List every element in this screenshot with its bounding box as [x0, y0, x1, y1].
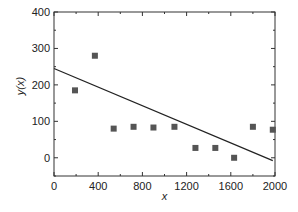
y-tick-label: 400	[32, 6, 50, 18]
data-point	[270, 127, 276, 133]
y-tick-label: 300	[32, 42, 50, 54]
fit-line	[54, 68, 273, 160]
plot-border	[54, 12, 275, 176]
data-point	[171, 124, 177, 130]
y-tick-label: 0	[44, 152, 50, 164]
x-tick-label: 1200	[174, 180, 198, 192]
x-tick-label: 400	[89, 180, 107, 192]
data-points	[72, 53, 276, 161]
axis-ticks: 04008001200160020000100200300400	[32, 6, 288, 192]
x-tick-label: 800	[133, 180, 151, 192]
data-point	[231, 155, 237, 161]
y-tick-label: 100	[32, 115, 50, 127]
scatter-chart: 04008001200160020000100200300400 x y(x)	[0, 0, 298, 212]
plot-frame	[54, 12, 275, 176]
x-axis-label: x	[161, 190, 168, 202]
data-point	[250, 124, 256, 130]
y-tick-label: 200	[32, 79, 50, 91]
x-tick-label: 2000	[263, 180, 287, 192]
regression-line	[54, 68, 273, 160]
data-point	[192, 145, 198, 151]
y-axis-label: y(x)	[14, 77, 26, 97]
x-tick-label: 1600	[219, 180, 243, 192]
data-point	[111, 126, 117, 132]
x-tick-label: 0	[51, 180, 57, 192]
data-point	[72, 87, 78, 93]
data-point	[92, 53, 98, 59]
data-point	[212, 145, 218, 151]
data-point	[131, 124, 137, 130]
data-point	[150, 125, 156, 131]
